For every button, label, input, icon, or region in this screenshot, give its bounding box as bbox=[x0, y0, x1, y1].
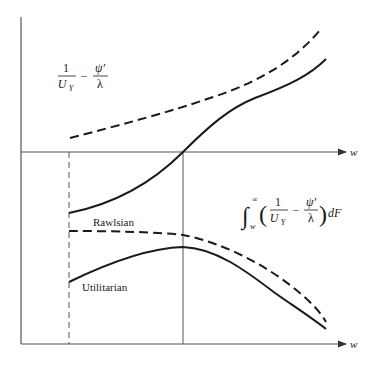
top-panel-formula: 1 U Y − ψ′ λ bbox=[58, 61, 108, 93]
svg-text:Y: Y bbox=[281, 218, 287, 227]
svg-text:ψ′: ψ′ bbox=[306, 195, 316, 209]
svg-text:∫: ∫ bbox=[240, 203, 250, 231]
utilitarian-label: Utilitarian bbox=[82, 281, 128, 293]
svg-text:Y: Y bbox=[69, 84, 75, 93]
svg-text:): ) bbox=[319, 201, 327, 227]
svg-text:λ: λ bbox=[97, 77, 103, 91]
rawlsian-curve bbox=[69, 231, 326, 322]
svg-text:∞: ∞ bbox=[252, 195, 258, 204]
svg-text:−: − bbox=[293, 203, 300, 217]
top-solid-curve bbox=[69, 59, 326, 213]
svg-text:−: − bbox=[81, 69, 88, 83]
svg-text:U: U bbox=[270, 211, 280, 225]
svg-text:U: U bbox=[58, 77, 68, 91]
svg-text:dF: dF bbox=[328, 206, 342, 220]
bottom-panel-formula: ∫ ∞ w ( 1 U Y − ψ′ λ ) dF bbox=[240, 195, 342, 231]
top-x-axis-label: w bbox=[350, 146, 358, 158]
svg-text:λ: λ bbox=[308, 211, 314, 225]
diagram-canvas: 1 U Y − ψ′ λ ∫ ∞ w ( 1 U Y − ψ′ λ ) dF R… bbox=[0, 0, 375, 365]
top-dashed-curve bbox=[70, 30, 320, 138]
svg-text:ψ′: ψ′ bbox=[95, 61, 105, 75]
svg-text:(: ( bbox=[259, 201, 267, 227]
svg-text:1: 1 bbox=[63, 61, 69, 75]
bottom-x-axis-label: w bbox=[350, 338, 358, 350]
svg-text:w: w bbox=[250, 222, 256, 231]
svg-text:1: 1 bbox=[275, 195, 281, 209]
rawlsian-label: Rawlsian bbox=[93, 216, 134, 228]
